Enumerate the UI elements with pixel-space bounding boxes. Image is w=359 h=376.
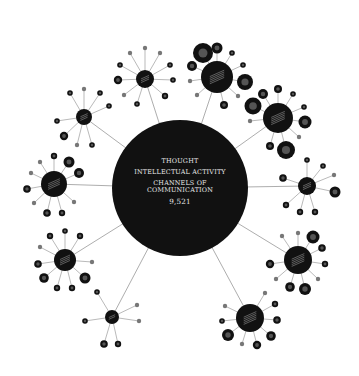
leaf-node-inner [241, 78, 248, 85]
leaf-node-inner [91, 144, 94, 147]
leaf-node-inner [45, 211, 48, 214]
leaf-node-inner [116, 78, 120, 82]
leaf-node-inner [64, 230, 67, 233]
hub-node [41, 171, 67, 197]
leaf-node [82, 87, 86, 91]
leaf-node [248, 119, 252, 123]
leaf-node-inner [302, 119, 308, 125]
leaf-node-inner [221, 320, 224, 323]
leaf-node-inner [269, 334, 273, 338]
leaf-node-inner [282, 146, 290, 154]
leaf-node-inner [67, 160, 72, 165]
leaf-node-inner [96, 291, 99, 294]
leaf-node [296, 231, 300, 235]
leaf-node-inner [71, 287, 74, 290]
leaf-node [90, 260, 94, 264]
leaf-node-inner [231, 52, 234, 55]
leaf-node-inner [77, 171, 82, 176]
leaf-node-inner [268, 262, 272, 266]
leaf-node-inner [49, 235, 52, 238]
leaf-node [188, 79, 192, 83]
leaf-node-inner [314, 211, 317, 214]
leaf-node-inner [242, 64, 245, 67]
leaf-node-inner [322, 165, 325, 168]
leaf-node-inner [320, 246, 323, 249]
leaf-node [236, 94, 240, 98]
leaf-node [137, 319, 141, 323]
leaf-node-inner [172, 79, 175, 82]
leaf-node [72, 200, 76, 204]
leaf-node-inner [56, 120, 59, 123]
leaf-node [223, 304, 227, 308]
leaf-node [195, 93, 199, 97]
leaf-node-inner [102, 342, 105, 345]
leaf-node-inner [99, 92, 102, 95]
leaf-node [297, 135, 301, 139]
leaf-node-inner [302, 286, 307, 291]
leaf-node-inner [333, 190, 338, 195]
leaf-node-inner [79, 235, 82, 238]
leaf-node [32, 201, 36, 205]
leaf-node-inner [268, 144, 272, 148]
leaf-node-inner [25, 187, 28, 190]
hub-node [54, 249, 76, 271]
leaf-node [280, 234, 284, 238]
leaf-node [263, 291, 267, 295]
leaf-node-inner [69, 92, 72, 95]
leaf-node [122, 93, 126, 97]
leaf-node-inner [324, 263, 327, 266]
center-channels-line2: COMMUNICATION [112, 187, 248, 194]
leaf-node [316, 277, 320, 281]
leaf-node-inner [274, 303, 277, 306]
leaf-node [128, 51, 132, 55]
leaf-node-inner [281, 176, 284, 179]
leaf-node-inner [261, 92, 266, 97]
leaf-node [332, 173, 336, 177]
leaf-node-inner [292, 93, 295, 96]
leaf-node-inner [56, 287, 59, 290]
leaf-node-inner [299, 211, 302, 214]
center-count: 9,521 [112, 199, 248, 206]
leaf-node-inner [61, 212, 64, 215]
leaf-node-inner [285, 204, 288, 207]
leaf-node-inner [306, 159, 309, 162]
leaf-node-inner [249, 102, 257, 110]
leaf-node-inner [84, 320, 87, 323]
leaf-node-inner [276, 87, 280, 91]
leaf-node-inner [62, 134, 66, 138]
leaf-node-inner [108, 105, 111, 108]
leaf-node-inner [36, 262, 39, 265]
center-subtitle: INTELLECTUAL ACTIVITY [112, 169, 248, 176]
leaf-node-inner [53, 155, 56, 158]
leaf-node-inner [83, 276, 88, 281]
leaf-node [38, 245, 42, 249]
leaf-node [274, 277, 278, 281]
leaf-node-inner [275, 318, 278, 321]
leaf-node [29, 171, 33, 175]
leaf-node-inner [42, 276, 46, 280]
leaf-node [75, 143, 79, 147]
leaf-node-inner [190, 64, 195, 69]
leaf-node-inner [169, 64, 172, 67]
leaf-node-inner [215, 46, 220, 51]
leaf-node-inner [164, 95, 167, 98]
leaf-node [143, 46, 147, 50]
leaf-node-inner [225, 332, 230, 337]
leaf-node-inner [310, 234, 316, 240]
leaf-node-inner [117, 343, 120, 346]
leaf-node-inner [119, 64, 122, 67]
leaf-node [240, 342, 244, 346]
leaf-node-inner [255, 343, 259, 347]
leaf-node [135, 303, 139, 307]
leaf-node-inner [136, 103, 139, 106]
hub-node [105, 310, 119, 324]
leaf-node-inner [222, 103, 226, 107]
center-title: THOUGHT [112, 158, 248, 165]
leaf-node [38, 160, 42, 164]
leaf-node-inner [303, 106, 306, 109]
leaf-node-inner [288, 285, 292, 289]
leaf-node [158, 51, 162, 55]
leaf-node-inner [199, 49, 208, 58]
